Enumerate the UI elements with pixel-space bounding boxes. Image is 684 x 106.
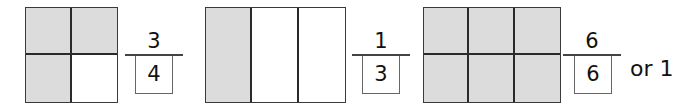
numerator: 1 — [352, 29, 410, 53]
grid-cell-unshaded — [252, 8, 298, 102]
fraction-label-three-fourths: 3 4 — [125, 29, 183, 95]
grid-cell-shaded — [26, 55, 72, 102]
grid-cell-shaded — [469, 8, 514, 55]
equivalent-whole-label: or 1 — [630, 56, 674, 81]
grid-cell-shaded — [515, 8, 560, 55]
grid-cell-shaded — [515, 55, 560, 102]
grid-cell-shaded — [424, 8, 469, 55]
fraction-label-six-sixths: 6 6 — [563, 29, 621, 95]
fraction-model-six-sixths — [423, 7, 561, 103]
fraction-label-one-third: 1 3 — [352, 29, 410, 95]
grid-cell-unshaded — [72, 55, 118, 102]
grid-cell-shaded — [26, 8, 72, 55]
numerator: 3 — [125, 29, 183, 53]
denominator-box: 4 — [135, 56, 173, 94]
fraction-model-one-third — [205, 7, 346, 103]
numerator: 6 — [563, 29, 621, 53]
denominator-box: 6 — [574, 56, 612, 94]
grid-cell-unshaded — [299, 8, 345, 102]
grid-cell-shaded — [424, 55, 469, 102]
grid-cell-shaded — [469, 55, 514, 102]
fraction-model-three-fourths — [25, 7, 118, 103]
denominator-box: 3 — [362, 56, 400, 94]
grid-cell-shaded — [72, 8, 118, 55]
grid-cell-shaded — [206, 8, 252, 102]
